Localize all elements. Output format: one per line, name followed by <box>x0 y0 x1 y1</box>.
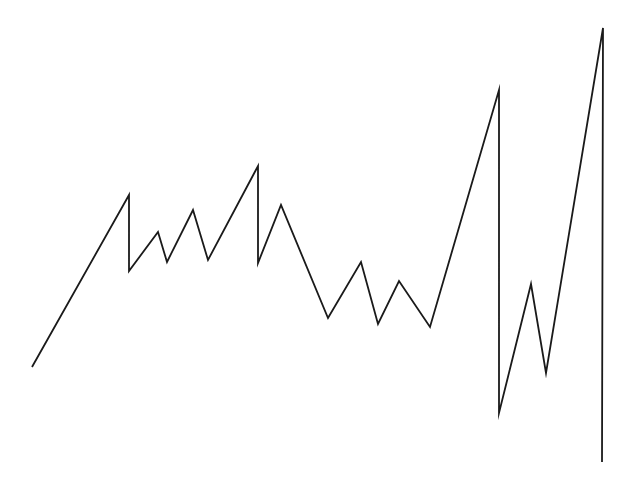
line-chart <box>0 0 638 483</box>
series-line-1 <box>32 28 603 462</box>
series-layer <box>32 28 603 462</box>
